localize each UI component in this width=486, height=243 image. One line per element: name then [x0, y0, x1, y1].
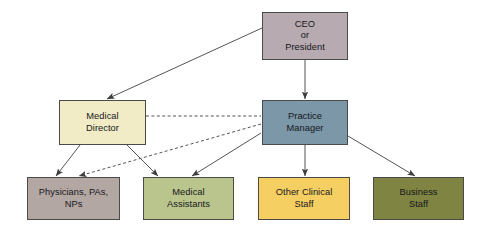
- org-chart: CEO or PresidentMedical DirectorPractice…: [0, 0, 486, 243]
- org-node-label: Medical Director: [84, 111, 121, 134]
- org-node-label: Physicians, PAs, NPs: [37, 187, 110, 210]
- connector-medical-director-to-physicians: [56, 145, 80, 176]
- org-node-medical-assistants[interactable]: Medical Assistants: [143, 177, 234, 220]
- org-node-label: CEO or President: [283, 19, 327, 54]
- org-node-practice-manager[interactable]: Practice Manager: [262, 100, 348, 145]
- org-node-business-staff[interactable]: Business Staff: [373, 177, 464, 220]
- connector-practice-manager-to-business-staff: [348, 136, 415, 176]
- org-node-label: Other Clinical Staff: [274, 187, 335, 210]
- org-node-label: Practice Manager: [284, 111, 325, 134]
- org-node-other-clinical-staff[interactable]: Other Clinical Staff: [258, 177, 350, 220]
- connector-practice-manager-to-medical-assistants: [192, 133, 261, 176]
- org-node-label: Business Staff: [397, 187, 439, 210]
- connector-medical-director-to-medical-assistants: [127, 145, 158, 176]
- org-node-medical-director[interactable]: Medical Director: [59, 100, 146, 145]
- connector-ceo-to-medical-director: [107, 28, 262, 99]
- org-node-ceo[interactable]: CEO or President: [262, 12, 348, 60]
- org-node-physicians[interactable]: Physicians, PAs, NPs: [27, 177, 120, 220]
- org-node-label: Medical Assistants: [165, 187, 212, 210]
